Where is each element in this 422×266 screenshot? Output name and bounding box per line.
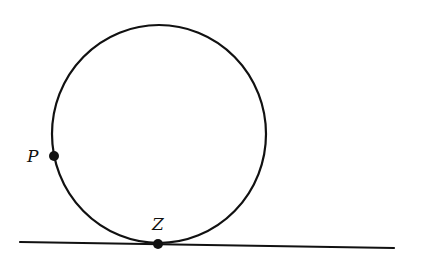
point-z-marker xyxy=(153,239,163,249)
point-p-marker xyxy=(49,151,59,161)
rolling-circle xyxy=(52,25,266,243)
diagram-canvas: P Z xyxy=(0,0,422,266)
point-z-label: Z xyxy=(151,214,165,234)
ground-line xyxy=(20,242,394,248)
point-p-label: P xyxy=(26,146,39,166)
